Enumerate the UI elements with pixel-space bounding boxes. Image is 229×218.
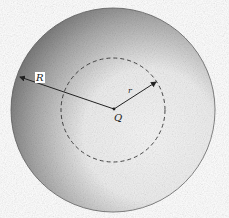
outer-radius-label: R <box>35 72 44 83</box>
diagram-canvas: R r Q <box>0 0 229 218</box>
sphere-texture <box>11 8 215 212</box>
center-point <box>113 108 116 111</box>
center-label: Q <box>114 112 122 123</box>
